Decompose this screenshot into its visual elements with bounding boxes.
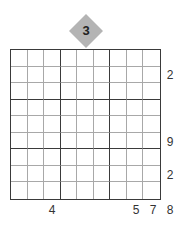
grid-cell-r9c5[interactable] [77, 182, 94, 199]
grid-cell-r1c8[interactable] [127, 50, 144, 67]
grid-cell-r5c3[interactable] [44, 116, 61, 133]
grid-cell-r5c2[interactable] [28, 116, 45, 133]
grid-cell-r9c2[interactable] [28, 182, 45, 199]
grid-cell-r1c4[interactable] [61, 50, 78, 67]
grid-cell-r1c5[interactable] [77, 50, 94, 67]
corner-clue: 8 [163, 203, 177, 217]
sudoku-grid [10, 49, 161, 200]
grid-cell-r3c3[interactable] [44, 83, 61, 100]
grid-cell-r1c7[interactable] [110, 50, 127, 67]
grid-cell-r5c1[interactable] [11, 116, 28, 133]
grid-cell-r4c5[interactable] [77, 100, 94, 117]
grid-cell-r8c7[interactable] [110, 166, 127, 183]
grid-cell-r9c9[interactable] [143, 182, 160, 199]
grid-cell-r1c6[interactable] [94, 50, 111, 67]
grid-cell-r3c4[interactable] [61, 83, 78, 100]
grid-cell-r7c1[interactable] [11, 149, 28, 166]
grid-cell-r4c3[interactable] [44, 100, 61, 117]
grid-cell-r4c4[interactable] [61, 100, 78, 117]
grid-cell-r4c7[interactable] [110, 100, 127, 117]
grid-cell-r2c1[interactable] [11, 67, 28, 84]
grid-cell-r7c2[interactable] [28, 149, 45, 166]
grid-cell-r2c3[interactable] [44, 67, 61, 84]
grid-cell-r5c8[interactable] [127, 116, 144, 133]
grid-cell-r6c1[interactable] [11, 133, 28, 150]
grid-cell-r9c1[interactable] [11, 182, 28, 199]
grid-cell-r1c1[interactable] [11, 50, 28, 67]
grid-cell-r7c5[interactable] [77, 149, 94, 166]
grid-cell-r6c7[interactable] [110, 133, 127, 150]
grid-cell-r5c6[interactable] [94, 116, 111, 133]
grid-cell-r3c8[interactable] [127, 83, 144, 100]
grid-cell-r8c1[interactable] [11, 166, 28, 183]
grid-cell-r3c1[interactable] [11, 83, 28, 100]
grid-cell-r4c9[interactable] [143, 100, 160, 117]
grid-cell-r2c7[interactable] [110, 67, 127, 84]
grid-cell-r9c6[interactable] [94, 182, 111, 199]
grid-cell-r4c1[interactable] [11, 100, 28, 117]
right-clue-row-2: 2 [163, 68, 177, 82]
grid-cell-r3c9[interactable] [143, 83, 160, 100]
grid-cell-r9c3[interactable] [44, 182, 61, 199]
bottom-clue-col-3: 4 [45, 203, 59, 217]
bottom-clue-col-8: 5 [129, 203, 143, 217]
right-clue-row-8: 2 [163, 168, 177, 182]
grid-cell-r8c5[interactable] [77, 166, 94, 183]
grid-cell-r3c5[interactable] [77, 83, 94, 100]
grid-cell-r7c4[interactable] [61, 149, 78, 166]
grid-cell-r6c5[interactable] [77, 133, 94, 150]
grid-cell-r7c8[interactable] [127, 149, 144, 166]
grid-cell-r2c8[interactable] [127, 67, 144, 84]
bottom-clue-col-9: 7 [146, 203, 160, 217]
grid-cell-r2c4[interactable] [61, 67, 78, 84]
grid-cell-r6c4[interactable] [61, 133, 78, 150]
grid-cell-r5c5[interactable] [77, 116, 94, 133]
grid-cell-r6c2[interactable] [28, 133, 45, 150]
grid-cell-r8c2[interactable] [28, 166, 45, 183]
grid-cell-r9c7[interactable] [110, 182, 127, 199]
grid-cell-r3c6[interactable] [94, 83, 111, 100]
grid-cell-r6c8[interactable] [127, 133, 144, 150]
grid-cell-r4c2[interactable] [28, 100, 45, 117]
grid-cell-r4c8[interactable] [127, 100, 144, 117]
grid-cell-r6c3[interactable] [44, 133, 61, 150]
grid-cell-r9c8[interactable] [127, 182, 144, 199]
grid-cell-r6c6[interactable] [94, 133, 111, 150]
grid-cell-r8c4[interactable] [61, 166, 78, 183]
grid-cell-r5c9[interactable] [143, 116, 160, 133]
right-clue-row-6: 9 [163, 135, 177, 149]
grid-cell-r3c7[interactable] [110, 83, 127, 100]
grid-cell-r9c4[interactable] [61, 182, 78, 199]
grid-cell-r1c9[interactable] [143, 50, 160, 67]
grid-cell-r2c5[interactable] [77, 67, 94, 84]
grid-cell-r8c3[interactable] [44, 166, 61, 183]
grid-cell-r2c2[interactable] [28, 67, 45, 84]
grid-cell-r1c3[interactable] [44, 50, 61, 67]
grid-cell-r8c8[interactable] [127, 166, 144, 183]
grid-cell-r7c6[interactable] [94, 149, 111, 166]
grid-cell-r5c7[interactable] [110, 116, 127, 133]
grid-cell-r6c9[interactable] [143, 133, 160, 150]
grid-cell-r7c7[interactable] [110, 149, 127, 166]
grid-cell-r7c9[interactable] [143, 149, 160, 166]
grid-cell-r2c6[interactable] [94, 67, 111, 84]
grid-cell-r8c9[interactable] [143, 166, 160, 183]
grid-cell-r1c2[interactable] [28, 50, 45, 67]
grid-cell-r3c2[interactable] [28, 83, 45, 100]
grid-cell-r8c6[interactable] [94, 166, 111, 183]
grid-cell-r5c4[interactable] [61, 116, 78, 133]
badge-number: 3 [74, 19, 98, 43]
grid-cell-r7c3[interactable] [44, 149, 61, 166]
grid-cell-r4c6[interactable] [94, 100, 111, 117]
grid-cell-r2c9[interactable] [143, 67, 160, 84]
